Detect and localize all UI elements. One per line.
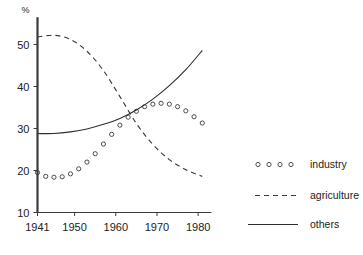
series-industry bbox=[35, 101, 204, 179]
legend-item-others[interactable]: others bbox=[248, 218, 339, 230]
data-point-marker bbox=[85, 160, 89, 164]
series-others bbox=[38, 50, 203, 133]
series-line bbox=[38, 35, 203, 176]
data-point-marker bbox=[184, 109, 188, 113]
axis-ticks bbox=[34, 45, 199, 217]
data-point-marker bbox=[52, 175, 56, 179]
data-point-marker bbox=[200, 121, 204, 125]
data-point-marker bbox=[77, 167, 81, 171]
data-point-marker bbox=[44, 174, 48, 178]
data-point-marker bbox=[167, 102, 171, 106]
axis-tick-labels: 1020304050%19411950196019701980 bbox=[17, 5, 210, 232]
legend: industryagricultureothers bbox=[248, 158, 359, 230]
circle-marker-sample bbox=[256, 162, 293, 166]
data-point-marker bbox=[60, 175, 64, 179]
chart-canvas: 1020304050%19411950196019701980 industry… bbox=[0, 0, 363, 255]
legend-label: industry bbox=[310, 158, 348, 170]
legend-circle-glyph bbox=[267, 162, 271, 166]
x-tick-label: 1941 bbox=[25, 221, 49, 233]
data-point-marker bbox=[101, 142, 105, 146]
series-agriculture bbox=[38, 35, 203, 176]
data-series bbox=[35, 35, 204, 179]
data-point-marker bbox=[192, 115, 196, 119]
y-tick-label: 10 bbox=[17, 207, 29, 219]
legend-circle-glyph bbox=[289, 162, 293, 166]
legend-circle-glyph bbox=[278, 162, 282, 166]
legend-label: others bbox=[310, 218, 339, 230]
chart-figure: 1020304050%19411950196019701980 industry… bbox=[0, 0, 363, 255]
data-point-marker bbox=[175, 105, 179, 109]
legend-item-industry[interactable]: industry bbox=[256, 158, 348, 170]
data-point-marker bbox=[151, 102, 155, 106]
data-point-marker bbox=[159, 101, 163, 105]
x-tick-label: 1980 bbox=[186, 221, 210, 233]
data-point-marker bbox=[110, 132, 114, 136]
y-axis-unit-label: % bbox=[21, 5, 29, 15]
y-tick-label: 30 bbox=[17, 123, 29, 135]
data-point-marker bbox=[68, 172, 72, 176]
legend-item-agriculture[interactable]: agriculture bbox=[255, 189, 359, 201]
y-tick-label: 20 bbox=[17, 165, 29, 177]
data-point-marker bbox=[118, 123, 122, 127]
y-tick-label: 50 bbox=[17, 39, 29, 51]
x-tick-label: 1970 bbox=[145, 221, 169, 233]
x-tick-label: 1950 bbox=[62, 221, 86, 233]
data-point-marker bbox=[93, 152, 97, 156]
legend-circle-glyph bbox=[256, 162, 260, 166]
legend-label: agriculture bbox=[310, 189, 359, 201]
y-tick-label: 40 bbox=[17, 81, 29, 93]
series-line bbox=[38, 50, 203, 133]
x-tick-label: 1960 bbox=[104, 221, 128, 233]
axes bbox=[38, 17, 212, 212]
